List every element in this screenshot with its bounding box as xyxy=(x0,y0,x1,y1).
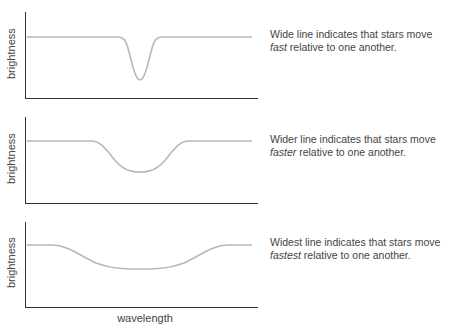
caption-emphasis: faster xyxy=(270,146,296,158)
panel-2-curve xyxy=(27,141,252,172)
caption-text: Wide line indicates that stars move xyxy=(270,28,432,40)
panel-2-y-axis-label: brightness xyxy=(5,133,17,184)
caption-text: Widest line indicates that stars move xyxy=(270,236,440,248)
x-axis-label: wavelength xyxy=(0,312,290,324)
panel-1-y-axis-label: brightness xyxy=(5,28,17,79)
caption-text: relative to one another. xyxy=(287,41,397,53)
panel-1-curve xyxy=(27,37,252,80)
panel-1-axes xyxy=(25,12,258,99)
panel-3-axes xyxy=(25,222,258,308)
panel-2-axes xyxy=(25,117,258,204)
caption-text: relative to one another. xyxy=(296,146,406,158)
caption-emphasis: fast xyxy=(270,41,287,53)
caption-text: relative to one another. xyxy=(301,249,411,261)
panel-3-y-axis-label: brightness xyxy=(5,237,17,288)
panel-3-caption: Widest line indicates that stars move fa… xyxy=(270,236,450,262)
panel-3-curve xyxy=(27,245,252,269)
panel-1-caption: Wide line indicates that stars move fast… xyxy=(270,28,450,54)
caption-text: Wider line indicates that stars move xyxy=(270,133,436,145)
panel-2-caption: Wider line indicates that stars move fas… xyxy=(270,133,450,159)
caption-emphasis: fastest xyxy=(270,249,301,261)
